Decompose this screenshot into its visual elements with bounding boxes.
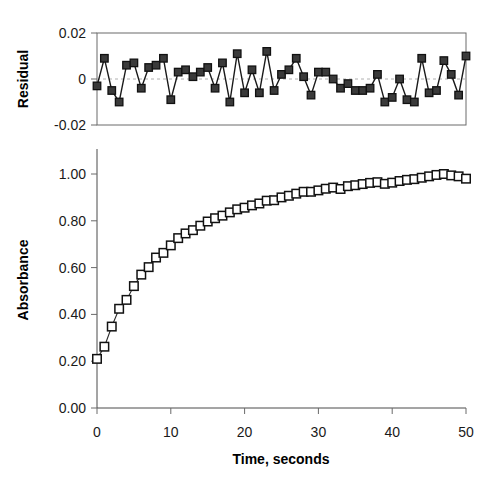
residual-data-point [433, 87, 441, 95]
residual-data-point [219, 59, 227, 67]
residual-data-point [322, 68, 330, 76]
residual-data-point [145, 64, 153, 72]
residual-data-point [256, 89, 263, 97]
absorbance-data-point [130, 282, 139, 291]
residual-ylabel-1: 0 [78, 71, 86, 87]
time-axis-title: Time, seconds [232, 451, 329, 467]
residual-data-point [174, 68, 182, 76]
residual-data-point [278, 71, 286, 79]
time-xtick-label: 40 [384, 424, 400, 440]
absorbance-y-ticks [91, 174, 97, 408]
residual-data-point [396, 75, 404, 83]
absorbance-data-point [100, 342, 109, 351]
residual-data-point [115, 98, 123, 106]
residual-data-point [425, 89, 433, 97]
residual-panel: 0.02 0 -0.02 Residual [15, 25, 470, 133]
residual-data-point [167, 96, 175, 104]
residual-data-point [352, 87, 360, 95]
residual-data-point [123, 61, 130, 68]
residual-data-point [440, 57, 448, 65]
residual-data-point [152, 61, 160, 68]
residual-data-point [388, 94, 396, 102]
residual-data-point [315, 68, 323, 76]
absorbance-panel: 0.000.200.400.600.801.00 01020304050 Abs… [15, 149, 474, 467]
absorbance-series-markers [93, 170, 471, 363]
absorbance-data-point [122, 296, 130, 305]
time-xtick-label: 50 [458, 424, 474, 440]
time-xtick-label: 20 [237, 424, 253, 440]
residual-data-point [263, 48, 271, 56]
residual-data-point [108, 87, 116, 95]
absorbance-data-point [115, 305, 124, 314]
residual-data-point [182, 66, 190, 74]
residual-data-point [293, 55, 301, 63]
residual-data-point [411, 98, 419, 106]
absorbance-y-ticklabels: 0.000.200.400.600.801.00 [59, 166, 86, 416]
residual-data-point [233, 50, 241, 58]
time-xtick-label: 30 [311, 424, 327, 440]
absorbance-ytick-label: 0.40 [59, 306, 86, 322]
residual-data-point [101, 55, 109, 63]
time-xtick-label: 10 [163, 424, 179, 440]
absorbance-x-ticks [97, 408, 466, 414]
residual-data-point [211, 84, 219, 92]
absorbance-data-point [108, 322, 117, 331]
absorbance-ytick-label: 0.20 [59, 353, 86, 369]
residual-data-point [447, 71, 455, 79]
residual-data-point [374, 71, 382, 79]
residual-data-point [300, 73, 308, 81]
absorbance-data-point [144, 263, 153, 272]
residual-data-point [381, 98, 389, 106]
residual-data-point [93, 82, 101, 90]
residual-data-point [337, 84, 345, 92]
residual-ylabel-0: 0.02 [59, 25, 86, 41]
time-xtick-label: 0 [93, 424, 101, 440]
residual-data-point [270, 87, 278, 95]
residual-data-point [226, 98, 234, 106]
residual-axis-title: Residual [15, 50, 31, 108]
residual-series-markers [93, 48, 470, 106]
residual-data-point [329, 75, 337, 83]
residual-data-point [189, 73, 197, 81]
residual-data-point [462, 52, 470, 60]
residual-data-point [138, 84, 146, 92]
residual-data-point [285, 66, 293, 74]
residual-data-point [344, 80, 352, 88]
residual-data-point [403, 96, 411, 104]
residual-data-point [130, 59, 138, 67]
absorbance-x-ticklabels: 01020304050 [93, 424, 474, 440]
residual-data-point [241, 89, 249, 97]
absorbance-ytick-label: 0.00 [59, 400, 86, 416]
residual-data-point [248, 66, 256, 74]
residual-data-point [307, 91, 315, 99]
residual-data-point [455, 91, 463, 99]
residual-data-point [197, 68, 205, 76]
residual-data-point [366, 84, 374, 92]
kinetics-figure: 0.02 0 -0.02 Residual 0.000.200.400.600.… [0, 0, 490, 494]
absorbance-ytick-label: 1.00 [59, 166, 86, 182]
residual-data-point [204, 64, 212, 72]
figure-container: 0.02 0 -0.02 Residual 0.000.200.400.600.… [0, 0, 490, 494]
absorbance-data-point [462, 174, 471, 183]
residual-ylabel-2: -0.02 [54, 117, 86, 133]
residual-data-point [160, 55, 168, 63]
absorbance-data-point [93, 355, 102, 364]
absorbance-axis-title: Absorbance [15, 239, 31, 320]
residual-data-point [418, 55, 426, 63]
absorbance-ytick-label: 0.60 [59, 260, 86, 276]
residual-data-point [359, 87, 367, 95]
absorbance-ytick-label: 0.80 [59, 213, 86, 229]
